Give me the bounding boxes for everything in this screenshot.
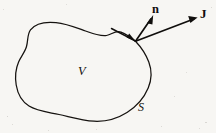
scan-grain (3, 4, 212, 131)
flux-vector-label: J (200, 7, 207, 20)
volume-label: V (78, 65, 86, 78)
normal-vector-label: n (152, 3, 159, 16)
normal-vector-arrowhead (147, 15, 153, 25)
flux-vector-arrowhead (188, 16, 197, 23)
diagram-svg (0, 0, 216, 133)
tangent-stub-group (112, 29, 136, 42)
tangent-stub-arrowhead (127, 34, 136, 42)
surface-label: S (138, 101, 144, 113)
figure-canvas: n J V S (0, 0, 216, 133)
flux-vector-line (136, 19, 194, 41)
